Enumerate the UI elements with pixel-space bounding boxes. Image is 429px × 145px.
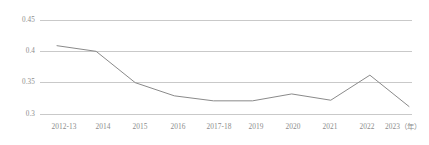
x-tick-label: 2015 <box>133 123 148 130</box>
x-tick-label: 2014 <box>96 123 111 130</box>
x-tick-label: 2023（年） <box>385 123 421 130</box>
x-tick-label: 2022 <box>360 123 375 130</box>
x-tick-label: 2020 <box>286 123 301 130</box>
x-axis: 2012-13 2014 2015 2016 2017-18 2019 2020… <box>0 0 429 145</box>
x-tick-label: 2019 <box>249 123 264 130</box>
x-tick-label: 2021 <box>323 123 338 130</box>
line-chart: 0.45 0.4 0.35 0.3 2012-13 2014 2015 2016… <box>0 0 429 145</box>
x-tick-label: 2016 <box>171 123 186 130</box>
x-tick-label: 2012-13 <box>52 123 77 130</box>
x-tick-label: 2017-18 <box>207 123 232 130</box>
